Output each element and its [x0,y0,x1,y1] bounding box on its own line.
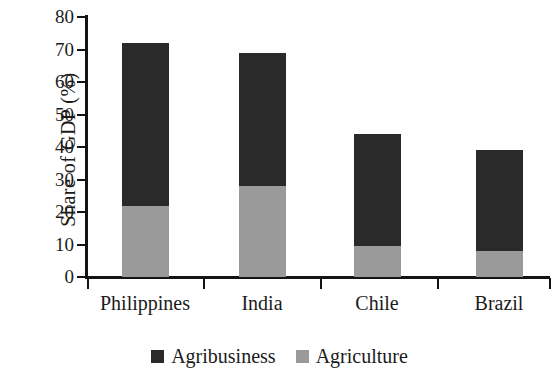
bar-segment-agriculture-brazil[interactable] [476,251,523,277]
y-tick-20 [77,211,86,213]
y-tick-label-50: 50 [30,104,74,126]
y-tick-label-10: 10 [30,234,74,256]
y-tick-50 [77,114,86,116]
y-tick-label-70: 70 [30,39,74,61]
bar-segment-agriculture-chile[interactable] [354,246,401,277]
bar-segment-agriculture-philippines[interactable] [122,206,169,278]
y-tick-0 [77,276,86,278]
legend-swatch-icon-agriculture [296,350,309,363]
x-tick-2 [320,278,322,289]
x-axis-label-philippines: Philippines [100,292,190,315]
bar-segment-agribusiness-philippines[interactable] [122,43,169,206]
bar-segment-agribusiness-india[interactable] [239,53,286,186]
chart-legend: AgribusinessAgriculture [0,345,559,368]
bar-brazil[interactable] [476,150,523,277]
bar-segment-agriculture-india[interactable] [239,186,286,277]
bar-chile[interactable] [354,134,401,277]
y-tick-70 [77,49,86,51]
y-tick-10 [77,244,86,246]
x-tick-1 [203,278,205,289]
bar-philippines[interactable] [122,43,169,277]
x-tick-3 [437,278,439,289]
y-tick-label-20: 20 [30,201,74,223]
y-tick-label-60: 60 [30,71,74,93]
y-tick-label-0: 0 [30,266,74,288]
x-tick-0 [87,278,89,289]
x-axis-label-india: India [241,292,282,315]
y-tick-40 [77,146,86,148]
legend-label-agribusiness: Agribusiness [171,345,275,368]
x-axis-label-brazil: Brazil [475,292,524,315]
y-tick-label-30: 30 [30,169,74,191]
stacked-bar-chart: Share of GDP (%) 01020304050607080 Phili… [0,0,559,380]
y-tick-30 [77,179,86,181]
x-axis-label-chile: Chile [355,292,398,315]
bar-india[interactable] [239,53,286,277]
y-tick-label-40: 40 [30,136,74,158]
y-tick-label-80: 80 [30,6,74,28]
legend-label-agriculture: Agriculture [316,345,408,368]
x-tick-4 [549,278,551,289]
bar-segment-agribusiness-brazil[interactable] [476,150,523,251]
bar-segment-agribusiness-chile[interactable] [354,134,401,246]
legend-item-agribusiness[interactable]: Agribusiness [151,345,275,368]
legend-swatch-icon-agribusiness [151,350,164,363]
y-tick-80 [77,16,86,18]
y-tick-60 [77,81,86,83]
legend-item-agriculture[interactable]: Agriculture [296,345,408,368]
